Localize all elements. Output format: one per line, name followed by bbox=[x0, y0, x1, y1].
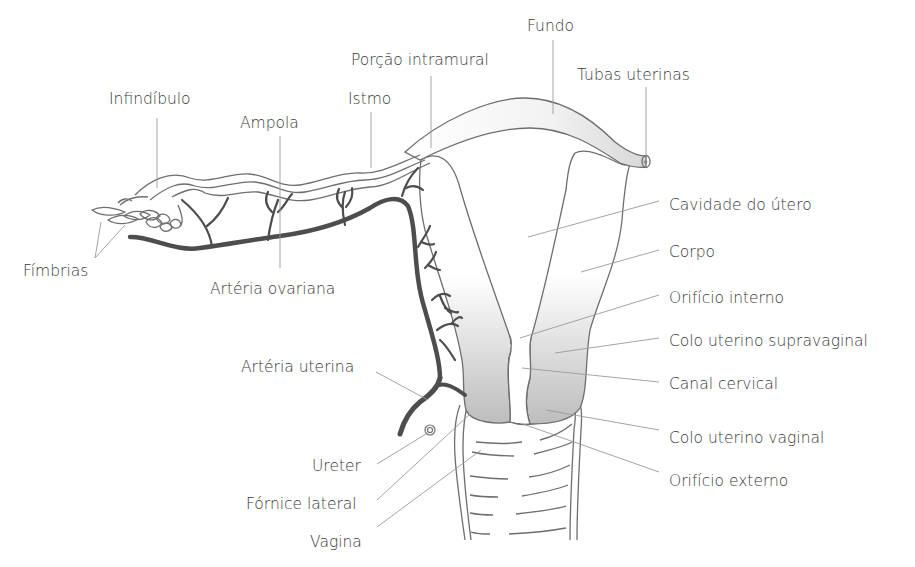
label-cavidade-do-utero: Cavidade do útero bbox=[669, 196, 812, 214]
label-ampola: Ampola bbox=[240, 114, 299, 132]
label-ureter: Ureter bbox=[312, 457, 362, 475]
label-orificio-interno: Orifício interno bbox=[669, 289, 784, 307]
ovarian-artery-shape bbox=[130, 168, 465, 434]
label-colo-uterino-vaginal: Colo uterino vaginal bbox=[669, 429, 824, 447]
ureter-shape bbox=[425, 425, 435, 435]
label-corpo: Corpo bbox=[669, 243, 715, 261]
label-fornice-lateral: Fórnice lateral bbox=[246, 495, 357, 513]
label-orificio-externo: Orifício externo bbox=[669, 472, 788, 490]
label-fundo: Fundo bbox=[527, 17, 574, 35]
label-istmo: Istmo bbox=[348, 90, 391, 108]
label-vagina: Vagina bbox=[310, 533, 362, 551]
label-porcao-intramural: Porção intramural bbox=[351, 51, 489, 69]
label-arteria-uterina: Artéria uterina bbox=[241, 358, 354, 376]
label-infundibulo: Infindíbulo bbox=[109, 90, 191, 108]
label-tubas-uterinas: Tubas uterinas bbox=[577, 66, 690, 84]
label-canal-cervical: Canal cervical bbox=[669, 375, 778, 393]
label-fimbrias: Fímbrias bbox=[23, 262, 88, 280]
label-arteria-ovariana: Artéria ovariana bbox=[210, 280, 335, 298]
fimbriae-shape bbox=[92, 199, 181, 231]
fundus-tube-shape bbox=[405, 98, 650, 168]
uterus-shape bbox=[420, 151, 630, 424]
label-colo-uterino-supravaginal: Colo uterino supravaginal bbox=[669, 332, 868, 350]
uterus-anatomy-diagram: Fundo Porção intramural Tubas uterinas I… bbox=[0, 0, 915, 567]
left-fallopian-tube bbox=[92, 155, 430, 231]
